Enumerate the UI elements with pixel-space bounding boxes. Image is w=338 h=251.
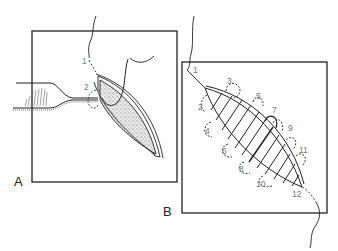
panel-b: 1 2 3 4 5 6 7 8 9 10 11 12 B (163, 16, 327, 248)
panel-b-suture-loops (201, 83, 305, 186)
panel-b-stitch-label: 8 (239, 164, 244, 174)
panel-a-stitch-label: 1 (82, 56, 87, 66)
panel-b-stitch-label: 3 (227, 76, 232, 86)
panel-b-suture-hatching (211, 93, 299, 186)
panel-a-stitch-label: 2 (84, 82, 89, 92)
panel-b-stitch-label: 1 (193, 65, 198, 75)
panel-b-stitch-label: 7 (272, 105, 277, 115)
panel-a-label: A (14, 174, 23, 189)
panel-b-stitch-label: 9 (288, 123, 293, 133)
panel-a-needle-tail (130, 56, 154, 62)
panel-a-wound-bed (100, 80, 156, 154)
panel-b-label: B (163, 204, 172, 219)
panel-b-suture-thread-bottom (310, 202, 320, 248)
panel-b-suture-thread-exit (302, 187, 316, 202)
panel-a-suture-thread-dashed (89, 60, 97, 74)
panel-b-frame (182, 62, 327, 213)
panel-a-loop-dashed (88, 90, 98, 108)
panel-b-stitch-label: 5 (256, 91, 261, 101)
panel-b-stitch-label: 11 (299, 145, 308, 155)
suture-diagram: 1 2 A (0, 0, 338, 251)
panel-b-stitch-label: 10 (256, 179, 266, 189)
panel-b-stitch-label: 2 (198, 102, 203, 112)
panel-b-stitch-label: 12 (292, 189, 302, 199)
panel-b-stitch-label: 4 (205, 126, 210, 136)
panel-b-stitch-label: 6 (222, 146, 227, 156)
panel-a-suture-thread-top (89, 16, 96, 58)
panel-a: 1 2 A (13, 16, 177, 189)
